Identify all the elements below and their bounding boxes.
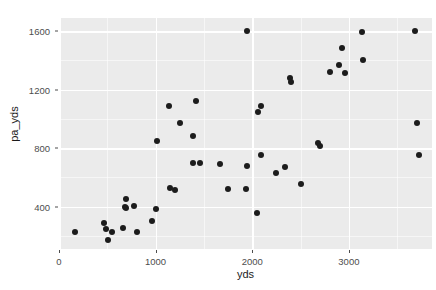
- data-point: [101, 220, 107, 226]
- data-point: [414, 120, 420, 126]
- y-axis-tick-mark: [55, 148, 58, 149]
- data-point: [109, 229, 115, 235]
- data-point: [336, 62, 342, 68]
- data-point: [288, 79, 294, 85]
- data-point: [258, 103, 264, 109]
- data-point: [153, 206, 159, 212]
- data-point: [123, 205, 129, 211]
- data-point: [131, 203, 137, 209]
- y-axis-tick-label: 1200: [29, 84, 50, 95]
- data-point: [416, 152, 422, 158]
- data-point: [225, 186, 231, 192]
- data-point: [255, 109, 261, 115]
- grid-major-vertical: [156, 18, 158, 249]
- grid-minor-horizontal: [59, 177, 432, 178]
- grid-minor-horizontal: [59, 60, 432, 61]
- data-point: [120, 225, 126, 231]
- data-point: [339, 45, 345, 51]
- data-point: [193, 98, 199, 104]
- data-point: [412, 28, 418, 34]
- data-point: [177, 120, 183, 126]
- data-point: [149, 218, 155, 224]
- y-axis-tick-label: 400: [34, 201, 50, 212]
- x-axis-tick-label: 1000: [145, 256, 166, 267]
- data-point: [243, 186, 249, 192]
- plot-panel: [59, 18, 432, 249]
- y-axis-tick-mark: [55, 89, 58, 90]
- x-axis-title: yds: [59, 268, 432, 280]
- data-point: [190, 133, 196, 139]
- scatter-plot-figure: 400800120016000100020003000 yds pa_yds: [0, 0, 436, 290]
- grid-minor-vertical: [204, 18, 205, 249]
- data-point: [244, 28, 250, 34]
- x-axis-tick-label: 3000: [338, 256, 359, 267]
- grid-major-horizontal: [59, 207, 432, 209]
- data-point: [244, 163, 250, 169]
- data-point: [342, 70, 348, 76]
- data-point: [273, 170, 279, 176]
- y-axis-tick-label: 1600: [29, 26, 50, 37]
- data-point: [123, 196, 129, 202]
- data-point: [254, 210, 260, 216]
- data-point: [317, 143, 323, 149]
- data-point: [166, 103, 172, 109]
- data-point: [72, 229, 78, 235]
- grid-minor-vertical: [301, 18, 302, 249]
- grid-major-vertical: [349, 18, 351, 249]
- grid-minor-vertical: [397, 18, 398, 249]
- grid-minor-horizontal: [59, 119, 432, 120]
- x-axis-tick-mark: [156, 250, 157, 253]
- x-axis-tick-label: 2000: [242, 256, 263, 267]
- data-point: [298, 181, 304, 187]
- data-point: [134, 229, 140, 235]
- data-point: [105, 237, 111, 243]
- grid-minor-horizontal: [59, 236, 432, 237]
- data-point: [327, 69, 333, 75]
- y-axis-tick-mark: [55, 206, 58, 207]
- grid-major-vertical: [59, 18, 61, 249]
- x-axis-tick-mark: [59, 250, 60, 253]
- y-axis-tick-mark: [55, 31, 58, 32]
- x-axis-tick-mark: [252, 250, 253, 253]
- data-point: [197, 160, 203, 166]
- data-point: [359, 29, 365, 35]
- data-point: [258, 152, 264, 158]
- grid-major-horizontal: [59, 148, 432, 150]
- data-point: [217, 161, 223, 167]
- grid-minor-vertical: [107, 18, 108, 249]
- y-axis-tick-label: 800: [34, 143, 50, 154]
- x-axis-tick-label: 0: [56, 256, 61, 267]
- y-axis-title: pa_yds: [8, 84, 20, 164]
- data-point: [154, 138, 160, 144]
- data-point: [190, 160, 196, 166]
- data-point: [172, 187, 178, 193]
- grid-major-horizontal: [59, 90, 432, 92]
- data-point: [282, 164, 288, 170]
- x-axis-tick-mark: [349, 250, 350, 253]
- data-point: [360, 57, 366, 63]
